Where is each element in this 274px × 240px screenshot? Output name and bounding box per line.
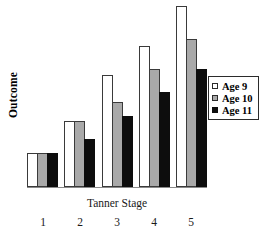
black-square-icon bbox=[212, 107, 218, 113]
bar-age11-stage5 bbox=[196, 69, 207, 187]
bar-groups-container bbox=[27, 6, 207, 187]
y-axis-title: Outcome bbox=[0, 0, 26, 190]
x-tick-3: 3 bbox=[101, 216, 133, 236]
legend-item-age-9: Age 9 bbox=[212, 80, 253, 92]
bar-age11-stage3 bbox=[122, 116, 133, 187]
bar-group-stage-3 bbox=[102, 6, 133, 187]
chart-legend: Age 9 Age 10 Age 11 bbox=[208, 76, 259, 120]
legend-label-age-10: Age 10 bbox=[222, 93, 253, 104]
gray-square-icon bbox=[212, 95, 218, 101]
bar-group-stage-4 bbox=[139, 6, 170, 187]
x-tick-2: 2 bbox=[64, 216, 96, 236]
x-tick-1: 1 bbox=[27, 216, 59, 236]
bar-chart-figure: Outcome bbox=[0, 0, 274, 240]
bar-age11-stage1 bbox=[47, 153, 58, 187]
legend-item-age-10: Age 10 bbox=[212, 92, 253, 104]
x-axis-line bbox=[27, 187, 207, 188]
legend-item-age-11: Age 11 bbox=[212, 104, 253, 116]
x-tick-5: 5 bbox=[175, 216, 207, 236]
white-square-icon bbox=[212, 83, 218, 89]
y-axis-title-text: Outcome bbox=[7, 72, 19, 118]
x-tick-4: 4 bbox=[138, 216, 170, 236]
bar-group-stage-5 bbox=[176, 6, 207, 187]
legend-label-age-11: Age 11 bbox=[222, 105, 252, 116]
bar-age11-stage4 bbox=[159, 92, 170, 187]
bar-group-stage-2 bbox=[64, 6, 95, 187]
legend-label-age-9: Age 9 bbox=[222, 81, 247, 92]
x-axis-title: Tanner Stage bbox=[27, 197, 207, 209]
plot-area bbox=[27, 6, 207, 191]
bar-age11-stage2 bbox=[84, 139, 95, 187]
x-axis-tick-labels: 1 2 3 4 5 bbox=[27, 216, 207, 236]
bar-group-stage-1 bbox=[27, 6, 58, 187]
